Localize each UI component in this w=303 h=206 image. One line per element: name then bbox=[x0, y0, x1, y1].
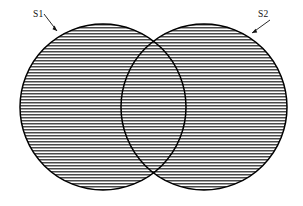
set-label-s1: S1 bbox=[33, 9, 43, 19]
venn-diagram-canvas: S1 S2 bbox=[0, 0, 303, 206]
set-label-s2: S2 bbox=[258, 9, 268, 19]
venn-diagram-figure: S1 S2 bbox=[0, 0, 303, 206]
